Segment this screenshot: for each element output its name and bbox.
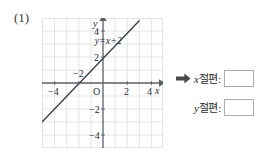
x-intercept-label-text: 절편: — [199, 73, 221, 85]
x-tick-label-2: 2 — [124, 86, 129, 97]
equation-text: y=x+2 — [94, 35, 122, 46]
x-intercept-label: x절편: — [194, 70, 221, 86]
right-arrow-icon — [176, 73, 191, 84]
x-axis-label: x — [154, 85, 160, 96]
y-tick-label--2: −2 — [89, 104, 100, 115]
y-intercept-label: y절편: — [194, 99, 221, 115]
x-tick-label--4: −4 — [48, 86, 59, 97]
x-tick-label-4: 4 — [147, 86, 152, 97]
problem-number: (1) — [14, 10, 29, 26]
x-tick-label--2: −2 — [73, 68, 84, 79]
x-intercept-row: x절편: — [176, 68, 254, 88]
y-tick-label--4: −4 — [89, 130, 100, 141]
y-intercept-row: y절편: — [176, 97, 254, 117]
y-intercept-input[interactable] — [224, 99, 254, 116]
equation-label: y=x+2 — [94, 35, 122, 46]
graph-svg: x y O −4 −2 2 4 4 2 −2 −4 y=x+2 — [42, 18, 163, 148]
origin-label: O — [93, 86, 100, 97]
y-tick-label-2: 2 — [94, 52, 99, 63]
coordinate-graph: x y O −4 −2 2 4 4 2 −2 −4 y=x+2 — [42, 18, 163, 148]
answer-panel: x절편: y절편: — [176, 62, 260, 124]
y-intercept-label-text: 절편: — [199, 102, 221, 114]
x-intercept-input[interactable] — [224, 70, 254, 87]
